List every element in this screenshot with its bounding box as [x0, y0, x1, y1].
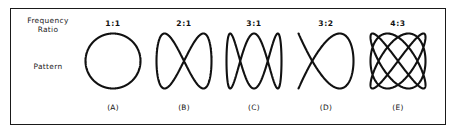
curve-path [86, 34, 141, 89]
pattern-column-d: 3:2 (D) [290, 8, 362, 125]
ratio-label-b: 2:1 [148, 19, 220, 28]
panel-label-c: (C) [218, 103, 290, 112]
row-label-frequency-ratio: Frequency Ratio [20, 16, 76, 35]
panel-label-d: (D) [290, 103, 362, 112]
row-label-pattern: Pattern [20, 62, 76, 71]
lissajous-curve-four-three-lattice [369, 32, 427, 100]
ratio-label-d: 3:2 [290, 19, 362, 28]
pattern-column-e: 4:3 (E) [362, 8, 434, 125]
lissajous-figure: Frequency Ratio Pattern 1:1 (A) 2:1 (B) … [0, 0, 458, 137]
lissajous-curve-three-lobe [225, 32, 283, 100]
panel-label-b: (B) [148, 103, 220, 112]
curve-path [227, 34, 282, 89]
lissajous-curve-figure-eight [155, 32, 213, 100]
ratio-label-a: 1:1 [77, 19, 149, 28]
panel-label-a: (A) [77, 103, 149, 112]
curve-path [371, 34, 426, 89]
lissajous-curve-three-two-lattice [297, 32, 355, 100]
pattern-column-a: 1:1 (A) [77, 8, 149, 125]
curve-path [157, 34, 212, 89]
panel-label-e: (E) [362, 103, 434, 112]
pattern-column-b: 2:1 (B) [148, 8, 220, 125]
lissajous-curve-circle [84, 32, 142, 100]
ratio-label-c: 3:1 [218, 19, 290, 28]
ratio-label-e: 4:3 [362, 19, 434, 28]
pattern-column-c: 3:1 (C) [218, 8, 290, 125]
curve-path [299, 34, 354, 89]
